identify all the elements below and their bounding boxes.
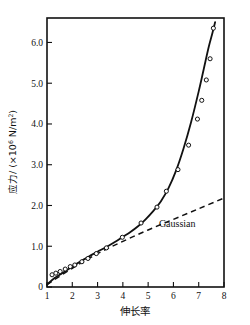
gaussian-dashed-line xyxy=(47,199,223,285)
x-axis-tick-labels: 12345678 xyxy=(45,291,227,301)
x-tick-label: 8 xyxy=(222,291,227,301)
x-tick-label: 2 xyxy=(70,291,75,301)
data-point-marker xyxy=(176,168,180,172)
data-point-marker xyxy=(94,252,98,256)
data-point-markers xyxy=(50,26,215,277)
y-tick-label: 1.0 xyxy=(31,242,43,252)
data-point-marker xyxy=(68,265,72,269)
x-tick-label: 7 xyxy=(196,291,201,301)
plot-frame xyxy=(47,18,224,287)
x-tick-label: 4 xyxy=(120,291,125,301)
data-point-marker xyxy=(195,117,199,121)
svg-text:伸长率: 伸长率 xyxy=(120,305,150,317)
y-tick-label: 5.0 xyxy=(31,79,43,89)
svg-text:应力/ (×106 N/m2): 应力/ (×106 N/m2) xyxy=(7,110,19,194)
y-tick-label: 0 xyxy=(38,282,43,292)
data-point-marker xyxy=(164,189,168,193)
y-axis-tick-labels: 01.02.03.04.05.06.0 xyxy=(31,38,43,293)
y-axis-label: 应力/ (×106 N/m2) xyxy=(7,110,19,194)
x-tick-label: 5 xyxy=(146,291,151,301)
data-point-marker xyxy=(63,267,67,271)
y-tick-label: 2.0 xyxy=(31,201,43,211)
chart-figure: 12345678 01.02.03.04.05.06.0 Gaussian 伸长… xyxy=(0,0,250,325)
gaussian-curve-label: Gaussian xyxy=(159,218,196,229)
data-point-marker xyxy=(208,57,212,61)
data-point-marker xyxy=(204,78,208,82)
data-point-marker xyxy=(58,269,62,273)
data-point-marker xyxy=(80,260,84,264)
stress-elongation-chart: 12345678 01.02.03.04.05.06.0 Gaussian 伸长… xyxy=(0,0,250,325)
y-tick-label: 6.0 xyxy=(31,38,43,48)
experimental-fit-curve xyxy=(47,22,215,284)
data-point-marker xyxy=(120,235,124,239)
data-point-marker xyxy=(211,26,215,30)
chart-annotations: Gaussian xyxy=(159,218,196,229)
x-tick-label: 6 xyxy=(171,291,176,301)
data-point-marker xyxy=(104,246,108,250)
x-tick-label: 3 xyxy=(95,291,100,301)
data-point-marker xyxy=(54,271,58,275)
data-point-marker xyxy=(73,263,77,267)
data-point-marker xyxy=(86,256,90,260)
x-axis-label: 伸长率 xyxy=(120,305,150,317)
y-tick-label: 4.0 xyxy=(31,119,43,129)
data-point-marker xyxy=(187,143,191,147)
data-point-marker xyxy=(139,221,143,225)
x-tick-label: 1 xyxy=(45,291,50,301)
data-point-marker xyxy=(200,98,204,102)
y-tick-label: 3.0 xyxy=(31,160,43,170)
data-series-group xyxy=(47,22,223,284)
data-point-marker xyxy=(155,205,159,209)
